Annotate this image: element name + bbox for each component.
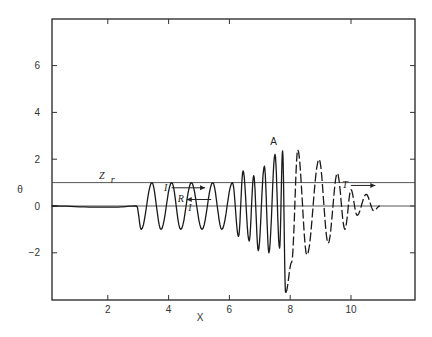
annotation-r: R <box>177 193 184 204</box>
incident-wave-line <box>52 151 286 293</box>
annotation-t: T <box>342 179 349 190</box>
x-axis-ticks: 246810 <box>105 19 357 315</box>
x-axis-label: X <box>197 312 204 323</box>
y-axis-label: θ <box>17 184 23 195</box>
plot-frame <box>52 19 415 300</box>
chart: −20246 246810 AZrIRIT X θ <box>0 0 432 337</box>
x-tick-label: 2 <box>105 304 111 315</box>
annotation-i: I <box>163 182 168 193</box>
annotation-a: A <box>270 136 277 147</box>
annotation-subscript: r <box>111 174 115 185</box>
arrowhead-icon <box>370 183 375 188</box>
x-tick-label: 6 <box>227 304 233 315</box>
x-tick-label: 8 <box>287 304 293 315</box>
annotation-z: Z <box>99 170 105 181</box>
y-tick-label: 2 <box>34 154 40 165</box>
arrowhead-icon <box>200 185 205 190</box>
y-tick-label: 6 <box>34 60 40 71</box>
x-tick-label: 10 <box>345 304 357 315</box>
annotation-i: I <box>187 202 192 213</box>
y-tick-label: 0 <box>34 201 40 212</box>
transmitted-wave-line <box>286 150 380 293</box>
x-tick-label: 4 <box>166 304 172 315</box>
y-tick-label: 4 <box>34 107 40 118</box>
y-tick-label: −2 <box>29 247 41 258</box>
